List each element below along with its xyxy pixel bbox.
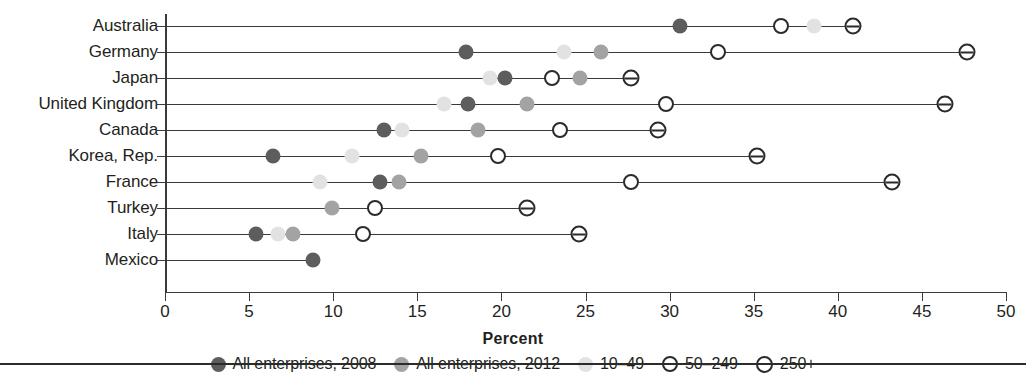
chart-legend: All enterprises, 2008All enterprises, 20… [0,355,1026,373]
category-label: France [106,173,158,190]
data-point-marker [883,174,900,191]
data-point-marker [556,45,571,60]
data-point-marker [355,226,371,242]
data-point-marker [437,97,452,112]
x-tick-mark [1006,292,1007,301]
category-label: Mexico [105,251,158,268]
category-label: United Kingdom [38,95,158,112]
x-tick-label: 40 [828,303,847,320]
row-connector-line [165,104,945,105]
row-connector-line [165,130,658,131]
row-connector-line [165,182,892,183]
row-connector-line [165,26,853,27]
data-point-marker [459,45,474,60]
x-tick-label: 0 [160,303,169,320]
data-point-marker [413,149,428,164]
data-point-marker [844,18,861,35]
row-tick [157,156,165,157]
category-label: Turkey [107,199,158,216]
category-label: Germany [89,43,158,60]
data-point-marker [593,45,608,60]
row-connector-line [165,208,527,209]
x-tick-mark [754,292,755,301]
data-point-marker [373,175,388,190]
row-connector-line [165,156,757,157]
x-tick-label: 35 [744,303,763,320]
x-tick-mark [165,292,166,301]
data-point-marker [265,149,280,164]
x-tick-label: 30 [660,303,679,320]
legend-item[interactable]: 250+ [756,355,816,373]
row-connector-line [165,260,313,261]
data-point-marker [248,227,263,242]
data-point-marker [270,227,285,242]
plot-area [165,0,1026,290]
x-tick-label: 15 [408,303,427,320]
category-label: Italy [127,225,158,242]
data-point-marker [391,175,406,190]
category-axis-labels: AustraliaGermanyJapanUnited KingdomCanad… [0,0,158,290]
data-point-marker [285,227,300,242]
category-label: Japan [112,69,158,86]
data-point-marker [623,174,639,190]
data-point-marker [658,96,674,112]
row-tick [157,26,165,27]
data-point-marker [344,149,359,164]
x-tick-label: 20 [492,303,511,320]
category-label: Australia [93,17,158,34]
row-tick [157,182,165,183]
x-tick-label: 25 [576,303,595,320]
data-point-marker [552,122,568,138]
data-point-marker [773,18,789,34]
row-connector-line [165,234,579,235]
x-tick-mark [501,292,502,301]
data-point-marker [497,71,512,86]
data-point-marker [937,96,954,113]
data-point-marker [395,123,410,138]
row-tick [157,208,165,209]
row-tick [157,260,165,261]
data-point-marker [544,70,560,86]
data-point-marker [324,201,339,216]
x-tick-mark [333,292,334,301]
data-point-marker [460,97,475,112]
x-tick-mark [586,292,587,301]
data-point-marker [573,71,588,86]
data-point-marker [519,97,534,112]
x-tick-mark [922,292,923,301]
x-tick-mark [838,292,839,301]
data-point-marker [312,175,327,190]
dot-plot-chart: AustraliaGermanyJapanUnited KingdomCanad… [0,0,1026,386]
x-tick-label: 45 [912,303,931,320]
data-point-marker [749,148,766,165]
x-tick-label: 50 [997,303,1016,320]
category-label: Korea, Rep. [68,147,158,164]
data-point-marker [470,123,485,138]
data-point-marker [482,71,497,86]
data-point-marker [306,253,321,268]
x-tick-mark [249,292,250,301]
data-point-marker [649,122,666,139]
row-tick [157,130,165,131]
row-tick [157,234,165,235]
data-point-marker [367,200,383,216]
data-point-marker [490,148,506,164]
x-tick-mark [670,292,671,301]
category-label: Canada [99,121,158,138]
row-tick [157,104,165,105]
x-tick-mark [417,292,418,301]
x-tick-label: 10 [324,303,343,320]
data-point-marker [672,19,687,34]
data-point-marker [376,123,391,138]
x-axis-title: Percent [0,330,1026,348]
data-point-marker [959,44,976,61]
row-connector-line [165,78,631,79]
legend-marker-icon [756,356,773,373]
data-point-marker [518,200,535,217]
x-tick-label: 5 [244,303,253,320]
data-point-marker [710,44,726,60]
data-point-marker [570,226,587,243]
data-point-marker [622,70,639,87]
row-tick [157,52,165,53]
row-tick [157,78,165,79]
